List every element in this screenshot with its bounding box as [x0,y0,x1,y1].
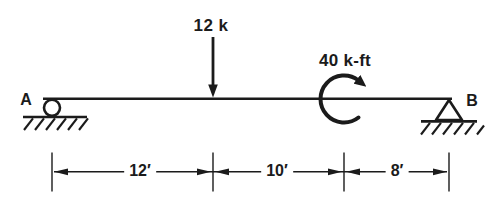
beam-diagram: 12 k 40 k-ft A B 12′ 10′ 8′ [0,0,492,211]
moment-label: 40 k-ft [319,52,371,69]
beam-diagram-drawing [0,0,492,211]
ground-hatch-left [24,118,88,130]
point-load-label: 12 k [193,17,228,34]
support-label-b: B [466,93,478,109]
dimension-label-3: 8′ [386,163,409,179]
dimension-label-2: 10′ [261,163,293,179]
support-label-a: A [20,92,32,108]
dimension-label-1: 12′ [124,163,156,179]
point-load-arrow-icon [208,37,218,98]
roller-support-icon [23,100,88,130]
ground-hatch-right [421,123,484,135]
